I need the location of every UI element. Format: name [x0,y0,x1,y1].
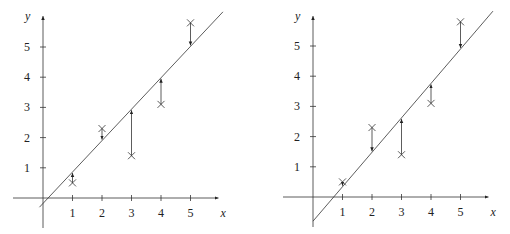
fit-line [39,12,222,207]
x-tick-label: 4 [428,205,434,219]
y-axis-label: y [294,9,301,23]
y-tick-label: 4 [24,70,30,84]
x-tick-label: 5 [188,206,194,220]
x-tick-label: 3 [399,205,405,219]
left-chart: 1234512345xy [0,0,255,234]
x-axis-label: x [220,206,227,220]
y-tick-label: 3 [294,99,300,113]
fit-line [313,11,493,221]
x-tick-label: 2 [369,205,375,219]
x-tick-label: 1 [70,206,76,220]
x-tick-label: 5 [458,205,464,219]
x-tick-label: 4 [158,206,164,220]
x-tick-label: 1 [340,205,346,219]
y-tick-label: 2 [24,131,30,145]
y-tick-label: 1 [24,161,30,175]
y-tick-label: 4 [294,69,300,83]
y-tick-label: 3 [24,100,30,114]
x-axis-label: x [490,205,497,219]
y-tick-label: 5 [24,40,30,54]
y-tick-label: 1 [294,160,300,174]
y-axis-label: y [24,9,31,23]
x-tick-label: 3 [129,206,135,220]
y-tick-label: 2 [294,130,300,144]
y-tick-label: 5 [294,39,300,53]
right-chart: 1234512345xy [255,0,510,234]
x-tick-label: 2 [99,206,105,220]
